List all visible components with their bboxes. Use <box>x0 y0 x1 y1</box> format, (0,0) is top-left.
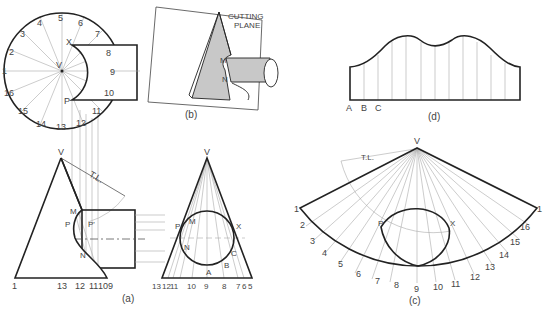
cone-dev-outline <box>300 148 537 266</box>
svg-text:8: 8 <box>394 280 399 290</box>
cone-dev-bottom-labels: 9 10 11 12 13 14 15 16 1 <box>414 204 542 294</box>
svg-text:1: 1 <box>537 204 542 214</box>
label-b: B <box>361 103 367 113</box>
front-view-apex-label: V <box>58 147 64 157</box>
pictorial-view: CUTTINGPLANE M N (b) <box>148 7 278 120</box>
cylinder-end <box>264 59 278 87</box>
svg-text:13: 13 <box>485 262 495 272</box>
label-16: 16 <box>4 88 14 98</box>
caption-c: (c) <box>409 295 421 306</box>
label-6: 6 <box>78 18 83 28</box>
label-n: N <box>80 251 86 260</box>
base-label-1: 1 <box>12 281 17 291</box>
label-p-prime: P' <box>88 220 95 229</box>
label-10: 10 <box>104 88 114 98</box>
side-view-element-lines <box>168 158 245 278</box>
label-c: C <box>375 103 382 113</box>
svg-text:15: 15 <box>510 237 520 247</box>
side-view-base-labels: 13 12 11 10 9 8 7 6 5 <box>152 282 253 291</box>
svg-text:12: 12 <box>470 272 480 282</box>
svg-text:5: 5 <box>248 282 253 291</box>
label-x: X <box>236 222 242 231</box>
label-13: 13 <box>56 122 66 132</box>
cutting-plane-label: CUTTINGPLANE <box>228 12 264 30</box>
label-9: 9 <box>110 67 115 77</box>
label-15: 15 <box>18 106 28 116</box>
svg-text:7: 7 <box>375 276 380 286</box>
svg-text:11: 11 <box>451 279 460 289</box>
label-7: 7 <box>95 29 100 39</box>
base-label-12: 12 <box>75 281 85 291</box>
front-view-tl-arc <box>88 196 125 222</box>
label-n: N <box>184 243 190 252</box>
svg-text:10: 10 <box>187 282 196 291</box>
front-view: T.L. V M P P' N 1 13 12 11 10 9 (a) <box>12 147 165 304</box>
side-view: V P M X N C B A 13 12 11 10 9 8 7 6 5 <box>152 147 253 291</box>
front-view-cylinder-projectors <box>135 215 165 262</box>
caption-a: (a) <box>122 293 134 304</box>
label-5: 5 <box>58 13 63 23</box>
label-1: 1 <box>2 66 7 76</box>
svg-text:1: 1 <box>294 204 299 214</box>
label-b: B <box>224 261 229 270</box>
side-view-apex-label: V <box>204 147 210 157</box>
svg-text:10: 10 <box>433 282 443 292</box>
label-a: A <box>206 268 212 277</box>
caption-b: (b) <box>185 109 197 120</box>
svg-text:14: 14 <box>499 250 509 260</box>
label-n: N <box>222 75 228 84</box>
label-p: P <box>64 96 70 106</box>
label-x: X <box>450 219 456 228</box>
svg-text:9: 9 <box>204 282 209 291</box>
drawing-canvas: 1 2 3 4 5 6 7 8 9 10 11 12 13 14 15 16 X… <box>0 0 544 313</box>
svg-text:9: 9 <box>414 284 419 294</box>
svg-text:6: 6 <box>242 282 247 291</box>
label-v: V <box>56 60 62 70</box>
cone-dev-hole <box>381 209 449 266</box>
label-p: P <box>175 222 180 231</box>
svg-text:5: 5 <box>338 259 343 269</box>
cylinder-development: A B C (d) <box>346 36 520 122</box>
label-4: 4 <box>37 18 42 28</box>
svg-text:6: 6 <box>356 269 361 279</box>
label-2: 2 <box>9 47 14 57</box>
svg-text:3: 3 <box>310 236 315 246</box>
base-label-9: 9 <box>108 281 113 291</box>
label-a: A <box>346 103 352 113</box>
svg-text:11: 11 <box>170 282 179 291</box>
label-m: M <box>189 217 196 226</box>
label-c: C <box>231 249 237 258</box>
caption-d: (d) <box>428 111 440 122</box>
svg-text:13: 13 <box>152 282 161 291</box>
svg-text:4: 4 <box>322 248 327 258</box>
label-11: 11 <box>92 106 101 116</box>
label-12: 12 <box>76 118 86 128</box>
label-x: X <box>66 37 72 47</box>
svg-text:7: 7 <box>236 282 241 291</box>
label-8: 8 <box>106 48 111 58</box>
svg-text:2: 2 <box>300 220 305 230</box>
label-p: P <box>378 219 383 228</box>
cone-development: T.L. V P X 1 2 3 4 5 6 7 8 9 10 11 12 13… <box>294 136 542 306</box>
base-label-10: 10 <box>98 281 108 291</box>
cylinder-shaded <box>226 58 270 82</box>
base-label-13: 13 <box>57 281 67 291</box>
svg-text:16: 16 <box>520 222 530 232</box>
label-m: M <box>70 207 77 216</box>
svg-text:8: 8 <box>222 282 227 291</box>
label-14: 14 <box>36 119 46 129</box>
base-label-11: 11 <box>89 281 98 291</box>
label-3: 3 <box>20 29 25 39</box>
cone-dev-tl-label: T.L. <box>361 153 374 162</box>
cone-dev-apex-label: V <box>414 136 420 146</box>
label-m: M <box>220 56 227 65</box>
label-p: P <box>65 220 70 229</box>
